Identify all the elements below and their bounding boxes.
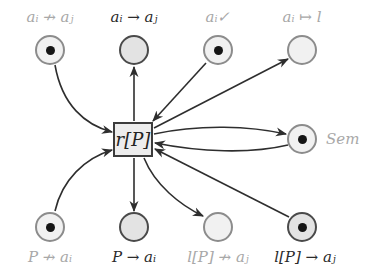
place-bot1 [35, 212, 65, 242]
arc-bot4-to-transition [155, 149, 289, 217]
arc-top3-to-transition [153, 63, 206, 121]
label-top4: aᵢ ↦ l [283, 8, 322, 26]
arc-top1-to-transition [55, 65, 112, 132]
place-top1 [35, 35, 65, 65]
token-icon [46, 46, 55, 55]
label-bot2: P → aᵢ [112, 248, 156, 266]
token-icon [298, 135, 307, 144]
arc-transition-to-sem [154, 127, 286, 134]
arc-bot1-to-transition [55, 150, 112, 211]
arc-transition-to-bot3 [144, 158, 203, 216]
place-sem [287, 124, 317, 154]
place-top4 [287, 35, 317, 65]
label-bot4: l[P] → aⱼ [274, 248, 336, 266]
label-bot3: l[P] ↛ aⱼ [187, 248, 249, 266]
label-sem: Sem [326, 130, 359, 148]
label-top2: aᵢ → aⱼ [111, 8, 158, 26]
place-top2 [119, 35, 149, 65]
place-bot4 [287, 212, 317, 242]
label-bot1: P ↛ aᵢ [28, 248, 72, 266]
token-icon [214, 46, 223, 55]
label-top1: aᵢ ↛ aⱼ [27, 8, 74, 26]
place-bot3 [203, 212, 233, 242]
transition-label: r[P] [116, 129, 151, 150]
arc-sem-to-transition [155, 143, 288, 151]
transition-box: r[P] [113, 122, 153, 157]
label-top3: aᵢ✓ [206, 8, 231, 26]
place-top3 [203, 35, 233, 65]
place-bot2 [119, 212, 149, 242]
token-icon [46, 223, 55, 232]
token-icon [298, 223, 307, 232]
arc-transition-to-top4 [154, 59, 288, 128]
petri-net-diagram: aᵢ ↛ aⱼ aᵢ → aⱼ aᵢ✓ aᵢ ↦ l r[P] Sem P ↛ … [0, 0, 381, 279]
